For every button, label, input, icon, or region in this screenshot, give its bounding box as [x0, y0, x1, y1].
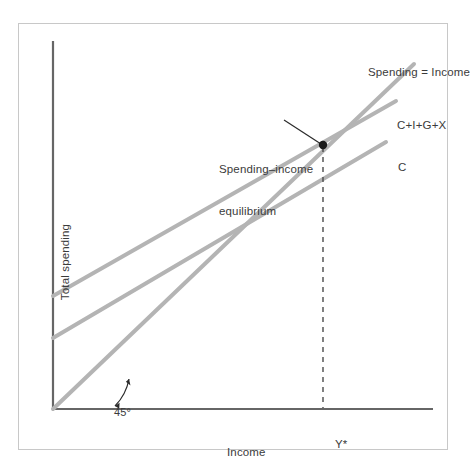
- equilibrium-annotation-line2: equilibrium: [219, 204, 313, 218]
- x-axis-title: Income: [227, 446, 266, 458]
- curve-label-consumption: C: [398, 161, 406, 173]
- angle-arc-icon: [115, 379, 129, 406]
- equilibrium-annotation-line1: Spending–income: [219, 162, 313, 176]
- curve-label-spending-equals-income: Spending = Income: [368, 66, 470, 78]
- equilibrium-point-marker: [319, 141, 327, 149]
- angle-label-45-degrees: 45°: [114, 406, 131, 418]
- x-axis-tick-label-y-star: Y*: [335, 438, 347, 450]
- figure-frame: Spending = Income C+I+G+X C Spending–inc…: [18, 23, 448, 450]
- equilibrium-annotation: Spending–income equilibrium: [219, 134, 313, 246]
- y-axis-title: Total spending: [59, 207, 71, 317]
- curve-label-aggregate-expenditure: C+I+G+X: [397, 119, 446, 131]
